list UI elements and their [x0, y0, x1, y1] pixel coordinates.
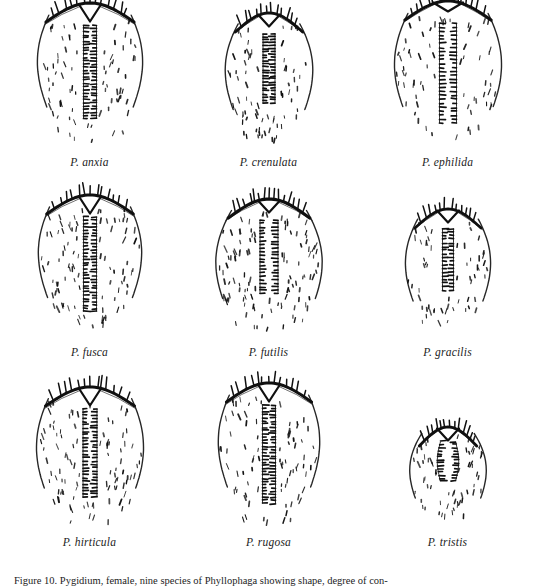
drawing-holder: [375, 0, 521, 156]
specimen-label-p-rugosa: P. rugosa: [246, 536, 291, 548]
specimen-cell-p-ephilida: P. ephilida: [358, 0, 537, 190]
apex-notch: [437, 211, 459, 223]
lateral-margin: [131, 399, 143, 488]
lobe-contour: [279, 17, 306, 35]
lateral-margin: [37, 15, 48, 107]
scattered-setae: [40, 401, 141, 525]
median-groove: [83, 25, 96, 119]
median-groove: [83, 409, 97, 498]
figure-plate: P. anxiaP. crenulataP. ephilidaP. fuscaP…: [0, 0, 537, 587]
lobe-contour: [44, 7, 79, 25]
drawing-holder: [194, 190, 344, 346]
drawing-holder: [386, 380, 510, 536]
scattered-setae: [413, 435, 482, 519]
specimen-cell-p-hirticula: P. hirticula: [0, 380, 179, 570]
lateral-margin: [478, 219, 490, 301]
specimen-label-p-hirticula: P. hirticula: [63, 536, 116, 548]
lobe-contour: [279, 387, 313, 405]
specimen-label-p-crenulata: P. crenulata: [240, 156, 297, 168]
median-groove: [260, 220, 278, 294]
lobe-contour: [100, 199, 134, 217]
specimen-cell-p-rugosa: P. rugosa: [179, 380, 358, 570]
specimen-cell-p-crenulata: P. crenulata: [179, 0, 358, 190]
lateral-margin: [306, 211, 322, 299]
scattered-setae: [219, 212, 318, 331]
median-groove: [83, 216, 96, 311]
specimen-cell-p-tristis: P. tristis: [358, 380, 537, 570]
specimen-label-p-fusca: P. fusca: [71, 346, 108, 358]
apex-notch: [79, 389, 101, 406]
scattered-setae: [228, 26, 306, 143]
apex-notch: [79, 5, 101, 22]
lateral-margin: [130, 207, 141, 298]
pygidium-drawing: [203, 0, 335, 156]
specimen-label-p-anxia: P. anxia: [70, 156, 108, 168]
lobe-contour: [225, 387, 259, 405]
pygidium-drawing: [386, 408, 510, 536]
apex-notch: [258, 385, 280, 402]
drawing-holder: [199, 380, 339, 536]
pygidium-drawing: [18, 0, 162, 156]
pygidium-drawing: [199, 364, 339, 536]
pygidium-drawing: [375, 0, 521, 156]
figure-caption: Figure 10. Pygidium, female, nine specie…: [14, 574, 526, 587]
specimen-label-p-tristis: P. tristis: [428, 536, 468, 548]
median-groove: [439, 23, 456, 123]
scattered-setae: [43, 19, 135, 142]
scattered-setae: [219, 397, 316, 525]
median-groove: [263, 34, 275, 104]
lateral-margin: [308, 395, 319, 487]
specimen-cell-p-fusca: P. fusca: [0, 190, 179, 380]
specimen-label-p-ephilida: P. ephilida: [422, 156, 473, 168]
specimen-cell-p-futilis: P. futilis: [179, 190, 358, 380]
lateral-margin: [299, 24, 312, 110]
apex-notch: [437, 429, 459, 441]
drawing-holder: [203, 0, 335, 156]
drawing-holder: [18, 0, 162, 156]
specimen-cell-p-gracilis: P. gracilis: [358, 190, 537, 380]
lobe-contour: [45, 199, 79, 217]
pygidium-drawing: [194, 180, 344, 346]
lateral-margin: [215, 211, 231, 299]
pygidium-drawing: [384, 190, 512, 346]
median-groove: [262, 405, 275, 504]
lobe-contour: [232, 17, 259, 35]
median-groove: [442, 228, 453, 291]
apex-notch: [258, 201, 280, 213]
specimen-grid: P. anxiaP. crenulataP. ephilidaP. fuscaP…: [0, 0, 537, 570]
scattered-setae: [396, 17, 495, 140]
lateral-margin: [225, 24, 238, 110]
pygidium-drawing: [19, 176, 161, 346]
specimen-label-p-futilis: P. futilis: [249, 346, 289, 358]
lateral-margin: [218, 395, 229, 487]
apical-margin-arc: [46, 195, 133, 214]
pygidium-drawing: [18, 368, 162, 536]
lateral-margin: [36, 399, 48, 488]
drawing-holder: [18, 380, 162, 536]
median-groove: [437, 441, 458, 482]
apex-notch: [258, 15, 280, 27]
specimen-label-p-gracilis: P. gracilis: [423, 346, 472, 358]
lateral-margin: [38, 207, 49, 298]
specimen-cell-p-anxia: P. anxia: [0, 0, 179, 190]
scattered-setae: [407, 222, 487, 326]
drawing-holder: [384, 190, 512, 346]
drawing-holder: [19, 190, 161, 346]
